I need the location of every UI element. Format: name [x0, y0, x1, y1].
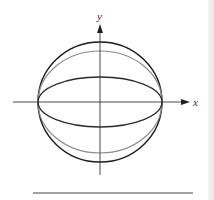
- x-axis-label: x: [192, 96, 198, 108]
- ellipse-family-diagram: x y: [0, 0, 214, 200]
- y-axis-arrow-icon: [97, 24, 103, 33]
- x-axis-arrow-icon: [181, 99, 190, 105]
- y-axis-label: y: [96, 10, 102, 22]
- page-edge-strip: [208, 0, 214, 200]
- diagram-canvas: x y: [0, 0, 214, 200]
